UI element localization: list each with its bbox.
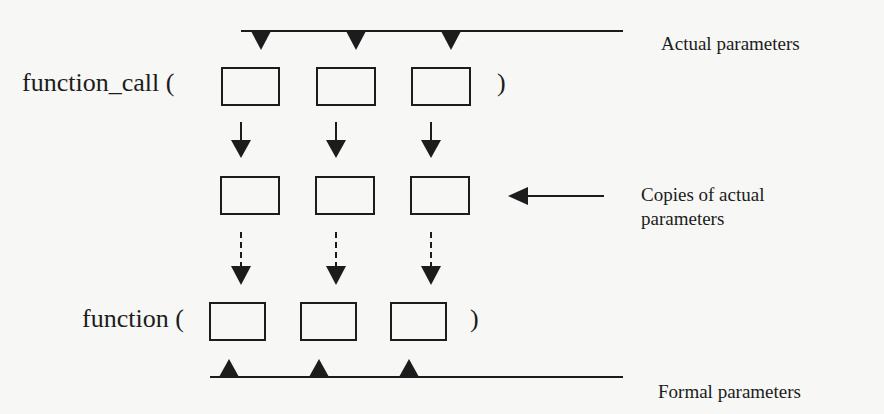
triangle-down-icon	[441, 31, 461, 50]
actual-parameter-box	[412, 68, 470, 105]
copy-box	[316, 177, 374, 214]
formal-parameter-box	[391, 303, 446, 340]
actual-parameter-box	[317, 68, 375, 105]
copies-label: Copies of actual parameters	[641, 183, 764, 231]
arrow-down-icon	[326, 266, 346, 285]
parameter-passing-diagram: function_call ( ) function ( ) Actual pa…	[0, 0, 884, 414]
copies-pointer-arrow	[508, 187, 604, 205]
triangle-up-icon	[399, 359, 419, 377]
function-call-label: function_call (	[22, 70, 174, 96]
triangle-up-icon	[309, 359, 329, 377]
arrow-down-icon	[231, 140, 251, 158]
function-label: function (	[82, 306, 184, 332]
copy-arrows	[231, 122, 441, 158]
arrow-down-icon	[421, 266, 441, 285]
triangle-up-icon	[219, 359, 239, 377]
actual-parameters-label: Actual parameters	[661, 34, 800, 53]
formal-parameter-box	[210, 303, 265, 340]
formal-parameters-label: Formal parameters	[658, 382, 801, 401]
arrow-left-icon	[508, 187, 528, 205]
dashed-arrowheads	[231, 266, 441, 285]
copies-label-line1: Copies of actual	[641, 183, 764, 207]
copy-boxes	[221, 177, 469, 214]
copy-box	[221, 177, 279, 214]
triangle-down-icon	[251, 31, 271, 50]
arrow-down-icon	[231, 266, 251, 285]
copies-label-line2: parameters	[641, 207, 764, 231]
actual-parameter-box	[222, 68, 279, 105]
arrow-down-icon	[326, 140, 346, 158]
copy-box	[411, 177, 469, 214]
function-call-close-paren: )	[497, 70, 506, 96]
triangle-down-icon	[346, 31, 366, 50]
arrow-down-icon	[421, 140, 441, 158]
function-close-paren: )	[470, 306, 479, 332]
formal-parameter-box	[301, 303, 356, 340]
actual-parameter-boxes	[222, 68, 470, 105]
formal-parameters-bracket	[210, 359, 623, 377]
pass-arrows	[241, 232, 431, 268]
formal-parameter-boxes	[210, 303, 446, 340]
actual-parameters-bracket	[241, 31, 623, 50]
